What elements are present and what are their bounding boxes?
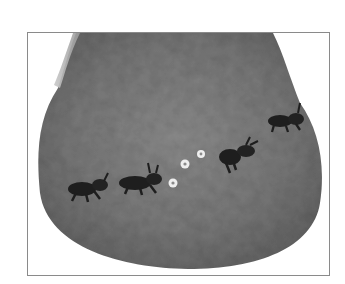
flower-icon — [197, 150, 205, 158]
image-frame — [27, 32, 330, 276]
flower-icon — [169, 179, 178, 188]
felt-bag-photo — [28, 33, 330, 276]
flower-icon — [181, 160, 190, 169]
felt-bag — [38, 33, 322, 269]
